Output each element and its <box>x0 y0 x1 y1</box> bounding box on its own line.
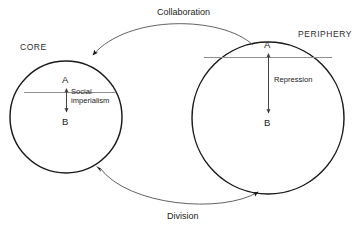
division-arrow-reverse-head <box>96 166 101 172</box>
periphery-node-a-label: A <box>264 40 270 50</box>
core-region-label: CORE <box>20 43 47 52</box>
collaboration-arrow <box>93 24 253 55</box>
division-relation-label: Division <box>167 212 199 221</box>
core-node-b-label: B <box>62 117 68 127</box>
periphery-region-label: PERIPHERY <box>298 30 352 39</box>
diagram-canvas: CORE PERIPHERY A B Social imperialism A … <box>0 0 361 228</box>
periphery-node-b-label: B <box>264 118 270 128</box>
collaboration-arrow-secondary <box>93 24 253 55</box>
core-node-a-label: A <box>62 75 68 85</box>
collaboration-relation-label: Collaboration <box>157 8 210 17</box>
periphery-internal-relation-line1: Repression <box>274 76 312 85</box>
core-internal-relation-line2: imperialism <box>71 97 109 106</box>
